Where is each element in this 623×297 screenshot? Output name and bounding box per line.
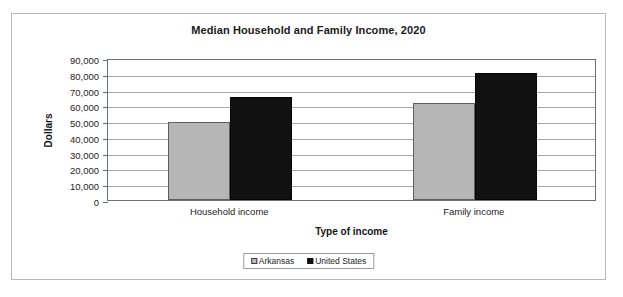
y-axis-tick-label: 70,000 bbox=[70, 86, 99, 97]
y-axis-tick bbox=[103, 60, 108, 61]
y-axis-tick-label: 30,000 bbox=[70, 149, 99, 160]
bar-united-states-family-income bbox=[475, 73, 537, 200]
y-axis-tick bbox=[103, 139, 108, 140]
category-label: Household income bbox=[190, 206, 269, 217]
legend-swatch-icon bbox=[251, 258, 257, 264]
chart-title: Median Household and Family Income, 2020 bbox=[12, 24, 605, 36]
y-axis-tick bbox=[103, 202, 108, 203]
bar-united-states-household-income bbox=[230, 97, 292, 200]
y-axis-tick bbox=[103, 170, 108, 171]
y-axis-tick-label: 90,000 bbox=[70, 55, 99, 66]
y-axis-tick-label: 40,000 bbox=[70, 133, 99, 144]
y-axis-tick bbox=[103, 155, 108, 156]
legend-entry[interactable]: Arkansas bbox=[251, 256, 294, 266]
legend-swatch-icon bbox=[307, 258, 313, 264]
y-axis-tick-label: 50,000 bbox=[70, 118, 99, 129]
legend-entry[interactable]: United States bbox=[307, 256, 366, 266]
plot-area: 90,00080,00070,00060,00050,00040,00030,0… bbox=[107, 59, 596, 201]
legend-label: United States bbox=[315, 256, 366, 266]
y-axis-tick-label: 80,000 bbox=[70, 70, 99, 81]
y-axis-tick bbox=[103, 76, 108, 77]
bar-arkansas-family-income bbox=[413, 103, 475, 200]
y-axis-tick bbox=[103, 107, 108, 108]
y-axis-tick bbox=[103, 123, 108, 124]
y-axis-tick bbox=[103, 92, 108, 93]
y-axis-tick bbox=[103, 186, 108, 187]
y-axis-tick-label: 0 bbox=[94, 197, 99, 208]
bar-arkansas-household-income bbox=[168, 122, 230, 200]
chart-frame: Median Household and Family Income, 2020… bbox=[11, 13, 606, 280]
category-label: Family income bbox=[443, 206, 504, 217]
y-axis-title-label: Dollars bbox=[44, 113, 55, 147]
y-axis-tick-label: 10,000 bbox=[70, 181, 99, 192]
y-axis-tick-label: 20,000 bbox=[70, 165, 99, 176]
y-axis-title: Dollars bbox=[42, 59, 56, 201]
y-axis-tick-label: 60,000 bbox=[70, 102, 99, 113]
legend-label: Arkansas bbox=[259, 256, 294, 266]
x-axis-title: Type of income bbox=[107, 226, 596, 237]
chart-legend: ArkansasUnited States bbox=[243, 253, 374, 269]
